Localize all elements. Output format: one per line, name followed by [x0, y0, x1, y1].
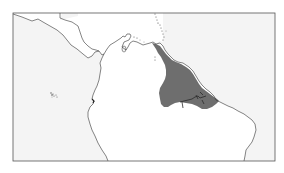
lake-maracaibo — [122, 46, 126, 52]
range-map: Species range map: northeastern South Am… — [0, 0, 284, 173]
map-canvas — [0, 0, 284, 173]
